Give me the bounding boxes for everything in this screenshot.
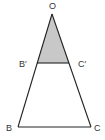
label-c-prime: C′ (78, 59, 86, 69)
label-c: C (94, 123, 101, 133)
triangle-diagram: O B′ C′ B C (0, 0, 105, 140)
label-o: O (49, 1, 56, 11)
label-b: B (6, 123, 12, 133)
label-b-prime: B′ (19, 59, 27, 69)
side-oc (52, 14, 91, 127)
side-ob (18, 14, 52, 127)
shaded-triangle-ob1c1 (37, 14, 69, 63)
